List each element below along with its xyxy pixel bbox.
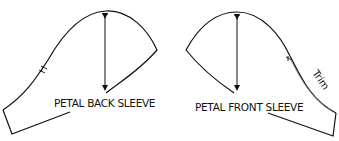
back-sleeve-cap-outline (3, 11, 157, 110)
back-sleeve-hem-outline (3, 110, 70, 134)
back-sleeve-piece: PETAL BACK SLEEVE (3, 11, 157, 134)
trim-annotation: Trim (310, 67, 332, 92)
back-sleeve-label: PETAL BACK SLEEVE (54, 97, 155, 109)
front-sleeve-hem-outline (268, 113, 336, 136)
front-sleeve-piece: PETAL FRONT SLEEVE Trim (186, 12, 336, 136)
front-sleeve-cap-outline (186, 12, 336, 113)
front-sleeve-label: PETAL FRONT SLEEVE (195, 101, 303, 113)
sleeve-pattern-diagram: PETAL BACK SLEEVE PETAL FRONT SLEEVE Tri… (0, 0, 339, 141)
